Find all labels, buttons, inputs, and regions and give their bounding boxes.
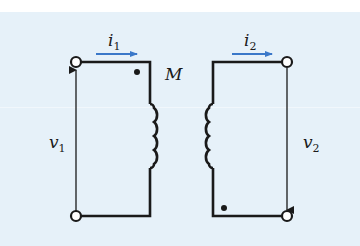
- v1-label: v1: [49, 132, 66, 155]
- mutual-inductance-label: M: [164, 64, 183, 84]
- i2-label: i2: [244, 30, 256, 53]
- i1-label: i1: [108, 30, 120, 53]
- secondary-circuit: [206, 54, 292, 221]
- secondary-coil-icon: [206, 104, 213, 168]
- primary-circuit: [71, 54, 157, 221]
- primary-bottom-terminal: [71, 211, 81, 221]
- secondary-top-terminal: [282, 57, 292, 67]
- secondary-bottom-terminal: [282, 211, 292, 221]
- primary-top-terminal: [71, 57, 81, 67]
- secondary-polarity-dot-icon: [221, 205, 227, 211]
- primary-wire: [80, 62, 150, 216]
- coupled-inductor-diagram: i1 i2 M v1 v2: [0, 0, 360, 246]
- primary-polarity-dot-icon: [134, 69, 140, 75]
- v2-label: v2: [303, 132, 320, 155]
- secondary-wire: [213, 62, 283, 216]
- primary-coil-icon: [150, 104, 157, 168]
